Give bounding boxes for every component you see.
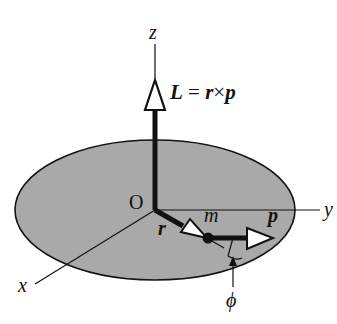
angular-momentum-diagram: z y x O L = r×p r m p ϕ (0, 0, 337, 324)
p-symbol: p (223, 80, 236, 104)
origin-label: O (129, 191, 143, 213)
angular-momentum-equation: L = r×p (169, 80, 236, 104)
mass-label: m (204, 204, 218, 226)
r-vector-label: r (158, 217, 166, 239)
phi-angle-label: ϕ (226, 289, 236, 312)
p-vector-label: p (266, 204, 278, 227)
x-axis-label: x (17, 274, 27, 296)
L-symbol: L (169, 80, 183, 104)
equals-sign: = (183, 80, 205, 104)
L-vector-arrowhead (145, 80, 165, 110)
z-axis-label: z (148, 21, 157, 43)
y-axis-label: y (322, 198, 333, 221)
cross-product-sign: × (213, 80, 225, 104)
